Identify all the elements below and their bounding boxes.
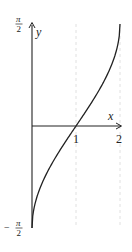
y-axis-label: y [35, 25, 42, 39]
x-tick-1: 1 [73, 132, 79, 146]
y-tick-pi-over-2: π 2 [16, 14, 23, 34]
svg-text:2: 2 [17, 228, 22, 238]
x-axis-label: x [107, 109, 114, 123]
arcsin-plot: x y 1 2 π 2 − π 2 [0, 0, 132, 252]
axes [29, 23, 122, 229]
y-tick-neg-pi-over-2: − π 2 [4, 218, 23, 238]
svg-text:−: − [4, 222, 10, 233]
svg-text:π: π [16, 14, 21, 24]
svg-text:π: π [16, 218, 21, 228]
svg-text:2: 2 [17, 24, 22, 34]
x-tick-2: 2 [116, 132, 122, 146]
